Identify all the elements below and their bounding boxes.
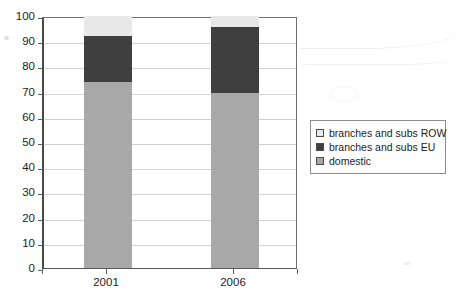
y-axis-tick-label: 20 — [22, 213, 35, 225]
y-axis-tick-label: 10 — [22, 238, 35, 250]
x-axis-tick-label: 2001 — [93, 276, 119, 289]
chart-legend: branches and subs ROWbranches and subs E… — [310, 120, 446, 174]
y-axis-tick-label: 40 — [22, 162, 35, 174]
y-axis-tick-label: 90 — [22, 36, 35, 48]
y-axis-tick-label: 70 — [22, 87, 35, 99]
y-axis-tick-mark — [38, 94, 43, 95]
x-axis-tick-mark — [106, 269, 107, 274]
x-axis-end-tick — [297, 269, 298, 274]
legend-swatch-icon — [316, 143, 324, 151]
y-axis-tick-label: 100 — [16, 11, 35, 23]
legend-swatch-icon — [316, 129, 324, 137]
y-axis-tick-mark — [38, 43, 43, 44]
bar-segment[interactable] — [211, 93, 259, 268]
y-axis-tick-label: 30 — [22, 187, 35, 199]
x-axis-tick-label: 2006 — [220, 276, 246, 289]
bar-segment[interactable] — [84, 82, 132, 268]
y-axis-tick-mark — [38, 220, 43, 221]
legend-item[interactable]: branches and subs EU — [316, 140, 439, 154]
y-axis-tick-label: 60 — [22, 112, 35, 124]
legend-item-label: domestic — [329, 156, 371, 167]
x-axis-start-tick — [42, 269, 43, 274]
bar-stack[interactable] — [84, 16, 132, 268]
scan-artifact-curve-mid — [296, 46, 459, 65]
y-axis-tick-mark — [38, 68, 43, 69]
y-axis-tick-mark — [38, 144, 43, 145]
plot-frame — [42, 17, 297, 269]
y-axis-tick-label: 80 — [22, 61, 35, 73]
bar-stack[interactable] — [211, 16, 259, 268]
y-axis-tick-label: 50 — [22, 137, 35, 149]
y-axis: 1009080706050403020100 — [0, 17, 35, 269]
y-axis-tick-mark — [38, 119, 43, 120]
bar-segment[interactable] — [211, 16, 259, 27]
y-axis-tick-mark — [38, 169, 43, 170]
x-axis-ticks — [42, 269, 298, 275]
legend-item-label: branches and subs EU — [329, 142, 435, 153]
scan-artifact-blob — [330, 86, 358, 102]
x-axis: 20012006 — [42, 276, 298, 292]
y-axis-tick-mark — [38, 18, 43, 19]
scan-artifact-speck-bottom — [404, 262, 410, 265]
bar-segment[interactable] — [84, 16, 132, 36]
legend-item[interactable]: branches and subs ROW — [316, 126, 439, 140]
legend-item-label: branches and subs ROW — [329, 128, 446, 139]
legend-swatch-icon — [316, 157, 324, 165]
y-axis-tick-mark — [38, 245, 43, 246]
y-axis-tick-mark — [38, 194, 43, 195]
y-axis-tick-label: 0 — [29, 263, 35, 275]
bar-segment[interactable] — [84, 36, 132, 82]
plot-area — [44, 18, 296, 268]
scan-artifact-curve-top — [300, 18, 459, 49]
bar-segment[interactable] — [211, 27, 259, 93]
legend-item[interactable]: domestic — [316, 154, 439, 168]
x-axis-tick-mark — [233, 269, 234, 274]
